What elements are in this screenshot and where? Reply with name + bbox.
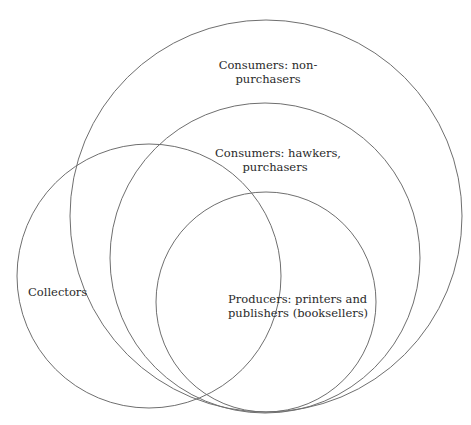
label-line: publishers (booksellers): [228, 306, 368, 320]
label-consumers-non-purchasers: Consumers: non- purchasers: [218, 58, 318, 86]
circle-collectors: [17, 144, 281, 408]
label-consumers-hawkers-purchasers: Consumers: hawkers, purchasers: [215, 146, 335, 174]
label-line: Consumers: hawkers,: [215, 146, 335, 160]
label-producers: Producers: printers and publishers (book…: [228, 292, 368, 320]
label-line: Producers: printers and: [228, 292, 368, 306]
label-line: Collectors: [28, 285, 87, 299]
label-line: purchasers: [218, 72, 318, 86]
label-line: Consumers: non-: [218, 58, 318, 72]
label-line: purchasers: [215, 160, 335, 174]
label-collectors: Collectors: [28, 285, 87, 299]
